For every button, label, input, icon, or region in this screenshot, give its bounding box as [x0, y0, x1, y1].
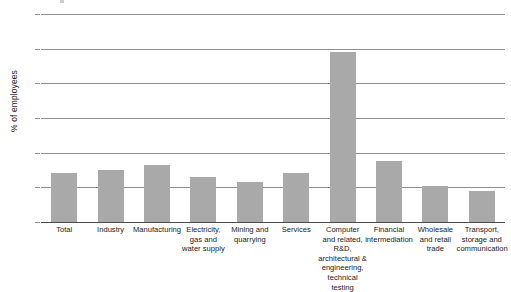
category-label: Total: [39, 225, 89, 235]
y-tick-mark: [35, 118, 40, 119]
bar: [98, 170, 124, 222]
category-label: Mining and quarrying: [225, 225, 275, 244]
bar: [469, 191, 495, 222]
category-labels: TotalIndustryManufacturingElectricity, g…: [41, 225, 505, 287]
category-label: Wholesale and retail trade: [410, 225, 460, 254]
y-tick-mark: [35, 49, 40, 50]
top-crop-artifact: [60, 0, 64, 3]
category-label: Transport, storage and communication: [457, 225, 507, 254]
y-tick-mark: [35, 187, 40, 188]
y-tick-mark: [35, 153, 40, 154]
x-axis-line: [41, 222, 505, 223]
bar: [190, 177, 216, 222]
bar: [283, 173, 309, 222]
category-label: Electricity, gas and water supply: [178, 225, 228, 254]
y-tick-mark: [35, 14, 40, 15]
bars-layer: [41, 14, 505, 222]
category-label: Computer and related, R&D, architectural…: [317, 225, 367, 292]
y-axis-title: % of employees: [9, 46, 19, 156]
category-label: Financial intermediation: [364, 225, 414, 244]
bar: [237, 182, 263, 222]
bar: [330, 52, 356, 222]
bar: [51, 173, 77, 222]
y-tick-mark: [35, 222, 40, 223]
category-label: Industry: [85, 225, 135, 235]
bar: [144, 165, 170, 222]
y-tick-mark: [35, 83, 40, 84]
category-label: Manufacturing: [132, 225, 182, 235]
bar: [422, 186, 448, 222]
bar: [376, 161, 402, 222]
category-label: Services: [271, 225, 321, 235]
